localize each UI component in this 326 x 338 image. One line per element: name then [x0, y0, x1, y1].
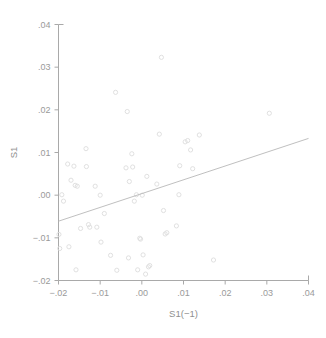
- data-point: [136, 268, 140, 272]
- y-axis-ticks: [55, 25, 59, 281]
- data-point: [99, 240, 103, 244]
- x-tick-label: .01: [177, 288, 190, 298]
- data-point: [102, 211, 106, 215]
- y-tick-label: −.02: [33, 276, 51, 286]
- data-point: [124, 166, 128, 170]
- data-point: [130, 152, 134, 156]
- data-point: [145, 174, 149, 178]
- data-point: [157, 132, 161, 136]
- data-point: [127, 179, 131, 183]
- y-axis-tick-labels: −.02−.01.00.01.02.03.04: [33, 20, 51, 286]
- data-point: [143, 272, 147, 276]
- data-point: [174, 224, 178, 228]
- y-tick-label: .03: [38, 62, 51, 72]
- data-point: [211, 258, 215, 262]
- y-tick-label: .00: [38, 190, 51, 200]
- scatter-plot-figure: −.02−.01.00.01.02.03.04 −.02−.01.00.01.0…: [0, 0, 326, 338]
- data-point: [197, 133, 201, 137]
- chart-canvas: −.02−.01.00.01.02.03.04 −.02−.01.00.01.0…: [0, 0, 326, 338]
- data-point: [84, 164, 88, 168]
- data-point: [125, 109, 129, 113]
- data-point: [126, 256, 130, 260]
- data-point: [178, 164, 182, 168]
- y-tick-label: .02: [38, 105, 51, 115]
- x-axis-title: S1(−1): [169, 308, 198, 319]
- x-tick-label: .03: [261, 288, 274, 298]
- data-point: [60, 193, 64, 197]
- y-tick-label: .04: [38, 20, 51, 30]
- data-point: [159, 55, 163, 59]
- x-tick-label: .00: [136, 288, 149, 298]
- x-tick-label: .02: [219, 288, 232, 298]
- y-axis-title: S1: [8, 147, 19, 159]
- data-point: [69, 178, 73, 182]
- data-point: [191, 167, 195, 171]
- x-tick-label: −.01: [91, 288, 109, 298]
- data-point: [61, 199, 65, 203]
- data-point: [155, 182, 159, 186]
- x-axis-ticks: [59, 281, 309, 285]
- data-point: [131, 165, 135, 169]
- regression-line: [59, 138, 309, 221]
- data-point: [93, 184, 97, 188]
- axes: [59, 25, 309, 281]
- data-point: [108, 253, 112, 257]
- data-point: [132, 199, 136, 203]
- data-point: [188, 148, 192, 152]
- data-point: [267, 111, 271, 115]
- data-point: [72, 164, 76, 168]
- data-point: [141, 253, 145, 257]
- data-point: [66, 162, 70, 166]
- x-tick-label: −.02: [50, 288, 68, 298]
- data-point: [113, 90, 117, 94]
- data-point: [161, 208, 165, 212]
- data-point: [84, 147, 88, 151]
- x-axis-tick-labels: −.02−.01.00.01.02.03.04: [50, 288, 315, 298]
- y-tick-label: .01: [38, 148, 51, 158]
- data-point: [115, 268, 119, 272]
- data-point: [95, 225, 99, 229]
- y-tick-label: −.01: [33, 233, 51, 243]
- data-point: [78, 226, 82, 230]
- data-point: [177, 193, 181, 197]
- data-point: [98, 193, 102, 197]
- x-tick-label: .04: [302, 288, 315, 298]
- fit-line: [59, 138, 309, 221]
- data-point: [74, 268, 78, 272]
- data-point: [67, 245, 71, 249]
- data-points: [57, 55, 272, 276]
